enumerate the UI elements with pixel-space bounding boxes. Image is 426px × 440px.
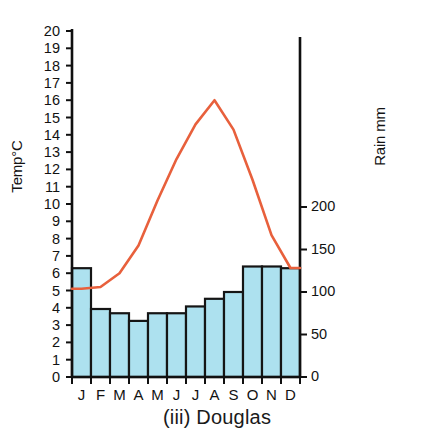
left-tick-label-9: 9 <box>34 214 60 229</box>
rain-bar-f-1 <box>91 309 110 377</box>
left-tick-label-4: 4 <box>34 301 60 316</box>
left-tick-label-17: 17 <box>34 76 60 91</box>
temperature-line <box>72 100 300 289</box>
rain-bar-n-10 <box>262 267 281 378</box>
left-tick-label-1: 1 <box>34 353 60 368</box>
left-tick-label-14: 14 <box>34 128 60 143</box>
climate-graph-figure: Temp°C Rain mm 0123456789101112131415161… <box>0 0 426 440</box>
left-tick-label-16: 16 <box>34 93 60 108</box>
month-label-march: M <box>110 386 130 403</box>
rain-bar-j-0 <box>72 268 91 377</box>
left-tick-label-2: 2 <box>34 335 60 350</box>
right-tick-label-50: 50 <box>311 327 351 342</box>
figure-caption: (iii) Douglas <box>0 406 426 429</box>
rain-bar-m-2 <box>110 313 129 377</box>
left-tick-label-7: 7 <box>34 249 60 264</box>
rain-axis-title: Rain mm <box>371 89 388 185</box>
figure-caption-text: (iii) Douglas <box>155 406 271 429</box>
left-tick-label-11: 11 <box>34 180 60 195</box>
left-tick-label-20: 20 <box>34 24 60 39</box>
month-label-january: J <box>72 386 92 403</box>
month-label-february: F <box>91 386 111 403</box>
left-tick-label-13: 13 <box>34 145 60 160</box>
left-tick-label-18: 18 <box>34 59 60 74</box>
month-label-july: J <box>186 386 206 403</box>
climate-plot-area <box>0 0 426 440</box>
left-tick-label-0: 0 <box>34 370 60 385</box>
left-tick-label-3: 3 <box>34 318 60 333</box>
month-label-april: A <box>129 386 149 403</box>
rain-bar-j-5 <box>167 313 186 377</box>
rain-bar-s-8 <box>224 292 243 377</box>
month-label-august: A <box>205 386 225 403</box>
month-label-december: D <box>281 386 301 403</box>
right-tick-label-150: 150 <box>311 242 351 257</box>
rain-bar-a-7 <box>205 299 224 377</box>
left-tick-label-10: 10 <box>34 197 60 212</box>
right-tick-label-0: 0 <box>311 369 351 384</box>
rain-bar-a-3 <box>129 321 148 377</box>
right-tick-label-100: 100 <box>311 284 351 299</box>
rain-bar-o-9 <box>243 267 262 378</box>
left-tick-label-5: 5 <box>34 284 60 299</box>
month-label-september: S <box>224 386 244 403</box>
rain-bar-m-4 <box>148 313 167 377</box>
right-tick-label-200: 200 <box>311 199 351 214</box>
rain-bar-d-11 <box>281 268 300 377</box>
month-label-june: J <box>167 386 187 403</box>
left-tick-label-12: 12 <box>34 162 60 177</box>
left-tick-label-8: 8 <box>34 232 60 247</box>
rain-bar-j-6 <box>186 306 205 377</box>
month-label-may: M <box>148 386 168 403</box>
month-label-november: N <box>262 386 282 403</box>
left-tick-label-19: 19 <box>34 41 60 56</box>
left-tick-label-15: 15 <box>34 111 60 126</box>
month-label-october: O <box>243 386 263 403</box>
temperature-axis-title: Temp°C <box>8 119 25 215</box>
left-tick-label-6: 6 <box>34 266 60 281</box>
